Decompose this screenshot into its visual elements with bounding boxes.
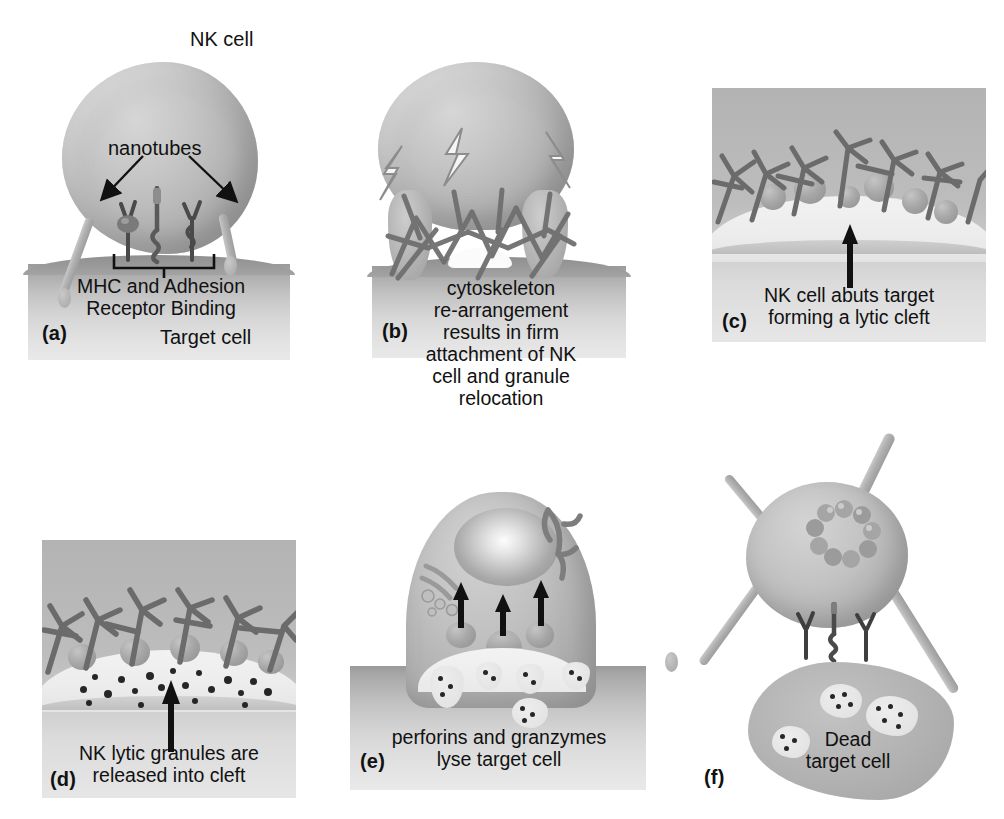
granzyme-dot	[569, 670, 574, 675]
granzyme-dot	[842, 692, 847, 697]
cytoskeleton-mesh-d	[42, 580, 296, 676]
mtoc-e	[528, 504, 586, 588]
granzyme-dot	[491, 676, 496, 681]
granzyme-dot	[530, 712, 535, 717]
perforin-pore-ring-f	[806, 500, 882, 572]
lytic-granule-dot	[182, 682, 189, 689]
lytic-granule-dot	[118, 676, 125, 683]
panel-f-caption: Dead target cell	[778, 728, 918, 772]
activation-bolt-mid-b	[438, 126, 482, 190]
activation-bolt-left-b	[372, 144, 420, 204]
receptor-binding-label: MHC and Adhesion Receptor Binding	[30, 275, 292, 319]
receptor-complex-1-f	[792, 610, 820, 662]
granzyme-dot	[848, 702, 853, 707]
lytic-granule-dot	[250, 678, 257, 685]
receptor-complex-3-f	[852, 610, 880, 664]
granzyme-dot	[830, 694, 835, 699]
panel-b: cytoskeleton re-arrangement results in f…	[330, 0, 660, 470]
granzyme-dot	[531, 680, 536, 685]
granzyme-dot	[836, 704, 841, 709]
panel-f-label: (f)	[704, 766, 725, 789]
lytic-granule-dot	[104, 690, 112, 698]
panel-d-label: (d)	[50, 768, 76, 791]
granzyme-dot	[577, 676, 582, 681]
panel-c-label: (c)	[722, 310, 747, 333]
nanotube-right-tip-a	[224, 256, 237, 276]
lytic-granule-dot	[242, 702, 248, 708]
panel-a: NK cell nanotubes MHC and Adhesion Recep…	[0, 0, 330, 360]
nanotube-arrow-right-a	[185, 152, 245, 212]
panel-e-caption: perforins and granzymes lyse target cell	[354, 726, 644, 770]
panel-a-label: (a)	[42, 322, 67, 345]
lytic-granule-dot	[192, 698, 198, 704]
panel-b-label: (b)	[382, 320, 408, 343]
granzyme-dot	[882, 718, 887, 723]
panel-e-label: (e)	[360, 750, 385, 773]
lytic-granule-dot	[86, 700, 92, 706]
granzyme-dot	[438, 676, 443, 681]
cleft-pointer-arrow-c	[840, 224, 860, 288]
lytic-granule-dot	[238, 690, 244, 696]
lytic-granule-dot	[138, 702, 144, 708]
receptor-complex-2-f	[822, 602, 846, 664]
lytic-granule-dot	[132, 688, 138, 694]
receptor-bracket-a	[112, 252, 216, 276]
lytic-granule-dot	[80, 686, 87, 693]
lytic-granule-dot	[264, 688, 272, 696]
lytic-granule-dot	[208, 686, 215, 693]
cytoskeleton-mesh-c	[712, 126, 986, 230]
granzyme-dot	[523, 672, 528, 677]
panel-f: Dead target cell (f)	[670, 440, 1004, 819]
granule-arrow-right-e	[532, 580, 550, 626]
panel-b-caption: cytoskeleton re-arrangement results in f…	[376, 277, 626, 409]
granzyme-dot	[522, 718, 527, 723]
panel-c-caption: NK cell abuts target forming a lytic cle…	[716, 284, 982, 328]
granzyme-dot	[483, 670, 488, 675]
dead-cell-vacuole-f	[820, 684, 862, 718]
activation-bolt-right-b	[530, 130, 578, 192]
target-cell-label: Target cell	[160, 326, 251, 349]
granzyme-dot	[898, 712, 903, 717]
lytic-granule-dot	[224, 676, 232, 684]
closeup-box-d: NK lytic granules are released into clef…	[42, 540, 296, 798]
closeup-box-c: NK cell abuts target forming a lytic cle…	[712, 88, 986, 342]
nanotube-arrow-left-a	[95, 152, 147, 208]
granzyme-dot	[448, 684, 453, 689]
nanotubes-label: nanotubes	[108, 137, 201, 160]
nanotube-tip-f	[665, 652, 678, 672]
granzyme-dot	[888, 704, 893, 709]
granzyme-dot	[440, 692, 445, 697]
granule-arrow-left-e	[452, 582, 470, 628]
granule-arrow-mid-e	[494, 594, 512, 636]
nk-cell-cytotoxicity-figure: NK cell nanotubes MHC and Adhesion Recep…	[0, 0, 1004, 819]
panel-e: perforins and granzymes lyse target cell…	[330, 470, 670, 819]
panel-d: NK lytic granules are released into clef…	[0, 470, 330, 819]
nk-cell-title-label: NK cell	[190, 28, 253, 51]
granzyme-dot	[520, 706, 525, 711]
granzyme-dot	[876, 706, 881, 711]
golgi-e	[418, 552, 482, 628]
panel-d-caption: NK lytic granules are released into clef…	[42, 742, 296, 786]
panel-c: NK cell abuts target forming a lytic cle…	[660, 0, 1004, 370]
